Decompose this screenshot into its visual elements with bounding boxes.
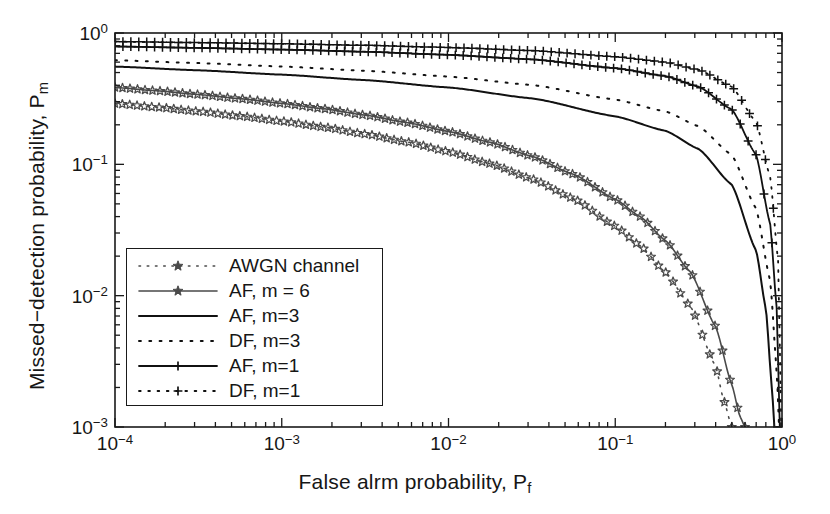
y-tick-label-3: 10−3 [72, 415, 108, 438]
y-axis-label: Missed−detection probability, Pm [25, 82, 51, 390]
y-tick-mantissa-0: 10 [79, 23, 100, 44]
x-tick-mantissa-1: 10 [264, 433, 285, 454]
x-axis-label-text: False alrm probability, P [299, 470, 528, 493]
y-axis-label-subscript: m [35, 82, 51, 94]
legend-label-2: AF, m=3 [229, 306, 299, 325]
x-tick-mantissa-3: 10 [597, 433, 618, 454]
legend-label-5: DF, m=1 [229, 381, 300, 400]
x-axis-label-subscript: f [527, 480, 531, 496]
x-axis-label: False alrm probability, Pf [0, 470, 830, 496]
legend-sample-1 [135, 280, 221, 302]
y-tick-label-0: 100 [79, 21, 108, 44]
y-tick-label-1: 10−1 [72, 153, 108, 176]
legend-sample-2 [135, 305, 221, 327]
legend-label-1: AF, m = 6 [229, 281, 310, 300]
legend-item-0: AWGN channel [127, 253, 382, 278]
x-tick-exponent-0: −4 [118, 432, 133, 447]
x-tick-label-2: 10−2 [430, 432, 466, 455]
x-tick-label-3: 10−1 [597, 432, 633, 455]
x-tick-mantissa-4: 10 [768, 433, 789, 454]
legend-label-4: AF, m=1 [229, 356, 299, 375]
y-tick-exponent-1: −1 [93, 153, 108, 168]
legend-sample-3 [135, 330, 221, 352]
y-tick-mantissa-1: 10 [72, 154, 93, 175]
y-tick-exponent-0: 0 [101, 21, 108, 36]
chart-legend: AWGN channelAF, m = 6AF, m=3DF, m=3AF, m… [126, 248, 383, 406]
y-tick-exponent-2: −2 [93, 284, 108, 299]
legend-sample-4 [135, 355, 221, 377]
legend-item-5: DF, m=1 [127, 378, 382, 403]
legend-sample-0 [135, 255, 221, 277]
legend-item-2: AF, m=3 [127, 303, 382, 328]
y-tick-mantissa-2: 10 [72, 285, 93, 306]
x-tick-exponent-2: −2 [451, 432, 466, 447]
x-tick-exponent-4: 0 [789, 432, 796, 447]
legend-label-0: AWGN channel [229, 256, 359, 275]
legend-item-4: AF, m=1 [127, 353, 382, 378]
legend-sample-5 [135, 380, 221, 402]
y-axis-label-text: Missed−detection probability, P [25, 94, 48, 390]
x-tick-label-1: 10−3 [264, 432, 300, 455]
legend-item-3: DF, m=3 [127, 328, 382, 353]
x-tick-label-4: 100 [768, 432, 797, 455]
y-tick-mantissa-3: 10 [72, 417, 93, 438]
x-tick-exponent-3: −1 [618, 432, 633, 447]
y-tick-label-2: 10−2 [72, 284, 108, 307]
chart-figure: 10−410−310−210−1100 10010−110−210−3 Fals… [0, 0, 830, 514]
legend-label-3: DF, m=3 [229, 331, 300, 350]
y-axis-label-wrapper: Missed−detection probability, Pm [25, 21, 53, 451]
x-tick-mantissa-2: 10 [430, 433, 451, 454]
legend-item-1: AF, m = 6 [127, 278, 382, 303]
y-tick-exponent-3: −3 [93, 415, 108, 430]
x-tick-exponent-1: −3 [285, 432, 300, 447]
